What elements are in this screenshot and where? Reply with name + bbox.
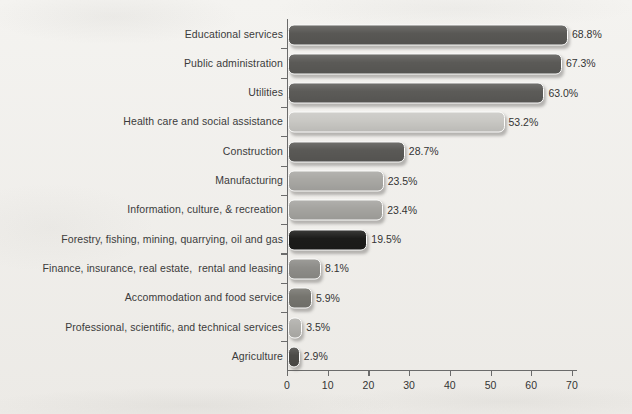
bar [288, 141, 405, 162]
bar-value-label: 8.1% [325, 262, 349, 274]
category-label: Information, culture, & recreation [127, 203, 283, 215]
bar-value-label: 68.8% [572, 28, 602, 40]
bar-container: 2.9% [288, 346, 300, 365]
bar-container: 5.9% [288, 288, 312, 307]
horizontal-bar-chart: Educational services68.8%Public administ… [0, 0, 632, 414]
bar-row: Educational services68.8% [0, 19, 632, 48]
category-label: Public administration [184, 57, 283, 69]
category-label: Educational services [185, 28, 283, 40]
x-axis-tick [368, 371, 369, 376]
bar [288, 288, 312, 309]
x-axis-tick [572, 371, 573, 376]
category-label: Health care and social assistance [123, 115, 283, 127]
x-axis-tick-label: 20 [363, 379, 375, 391]
bar-value-label: 67.3% [566, 57, 596, 69]
bar-row: Construction28.7% [0, 136, 632, 165]
bar-row: Forestry, fishing, mining, quarrying, oi… [0, 224, 632, 253]
bar-value-label: 19.5% [371, 233, 401, 245]
bar-value-label: 23.5% [388, 174, 418, 186]
bar [288, 200, 383, 221]
bar-container: 67.3% [288, 53, 562, 72]
bar [288, 258, 321, 279]
x-axis-tick-label: 30 [403, 379, 415, 391]
x-axis-tick-label: 40 [444, 379, 456, 391]
bar-row: Professional, scientific, and technical … [0, 312, 632, 341]
bar-value-label: 63.0% [548, 86, 578, 98]
category-label: Forestry, fishing, mining, quarrying, oi… [61, 233, 283, 245]
x-axis-tick-label: 10 [322, 379, 334, 391]
bar [288, 317, 302, 338]
bar [288, 83, 544, 104]
x-axis-tick [287, 371, 288, 376]
bar-row: Agriculture2.9% [0, 341, 632, 370]
bar-value-label: 28.7% [409, 145, 439, 157]
x-axis-tick [491, 371, 492, 376]
bar-row: Information, culture, & recreation23.4% [0, 195, 632, 224]
x-axis-tick-label: 70 [566, 379, 578, 391]
bar-container: 23.4% [288, 200, 383, 219]
bar [288, 24, 568, 45]
category-label: Finance, insurance, real estate, rental … [43, 262, 283, 274]
x-axis-tick [409, 371, 410, 376]
bar-row: Utilities63.0% [0, 78, 632, 107]
category-label: Utilities [248, 86, 283, 98]
bar-value-label: 2.9% [304, 350, 328, 362]
bar-row: Accommodation and food service5.9% [0, 283, 632, 312]
x-axis-tick [450, 371, 451, 376]
bar-container: 28.7% [288, 141, 405, 160]
category-label: Manufacturing [215, 174, 283, 186]
x-axis-tick-label: 60 [525, 379, 537, 391]
bar-value-label: 5.9% [316, 291, 340, 303]
x-axis-tick [531, 371, 532, 376]
bar-container: 8.1% [288, 258, 321, 277]
bar-row: Public administration67.3% [0, 48, 632, 77]
bar [288, 229, 367, 250]
x-axis-tick [328, 371, 329, 376]
x-axis-tick-label: 50 [485, 379, 497, 391]
bar-container: 19.5% [288, 229, 367, 248]
category-label: Accommodation and food service [125, 291, 283, 303]
bar-row: Manufacturing23.5% [0, 166, 632, 195]
bar-container: 3.5% [288, 317, 302, 336]
bar-container: 23.5% [288, 171, 384, 190]
bar-value-label: 23.4% [387, 203, 417, 215]
category-label: Professional, scientific, and technical … [65, 321, 283, 333]
bar-container: 53.2% [288, 112, 505, 131]
bar [288, 346, 300, 367]
bar [288, 53, 562, 74]
bar-value-label: 3.5% [306, 321, 330, 333]
category-label: Agriculture [232, 350, 283, 362]
bar [288, 112, 505, 133]
bar-value-label: 53.2% [509, 115, 539, 127]
bar-row: Finance, insurance, real estate, rental … [0, 253, 632, 282]
category-label: Construction [223, 145, 283, 157]
bar [288, 171, 384, 192]
bar-container: 68.8% [288, 24, 568, 43]
x-axis-tick-label: 0 [284, 379, 290, 391]
bar-container: 63.0% [288, 83, 544, 102]
bar-row: Health care and social assistance53.2% [0, 107, 632, 136]
